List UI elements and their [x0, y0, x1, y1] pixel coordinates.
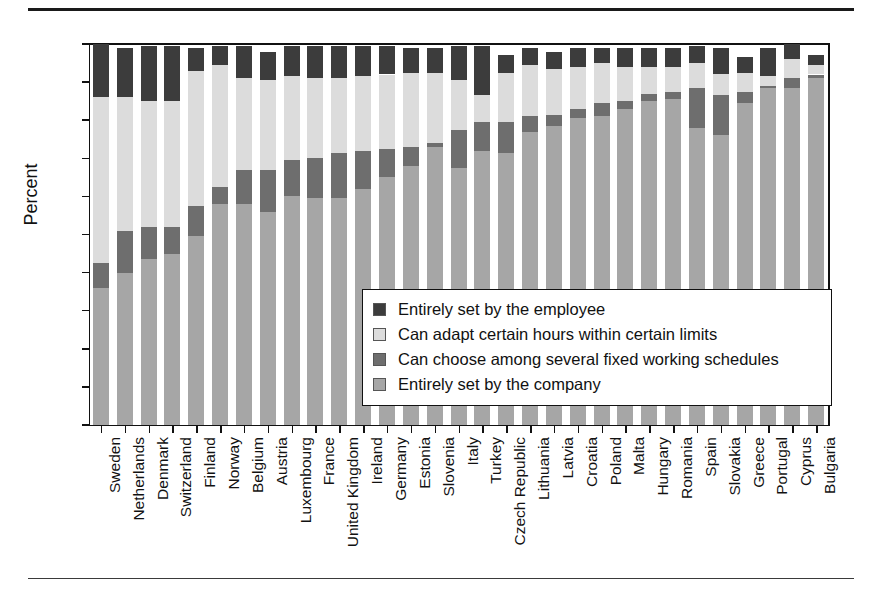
x-tick-mark	[482, 426, 484, 433]
x-tick-mark	[673, 426, 675, 433]
x-tick-mark	[196, 426, 198, 433]
x-tick-mark	[220, 426, 222, 433]
x-tick-mark	[625, 426, 627, 433]
x-tick-label: Romania	[679, 437, 695, 499]
x-tick-label: Denmark	[155, 437, 171, 500]
x-tick-label: Switzerland	[178, 437, 194, 517]
x-tick-mark	[411, 426, 413, 433]
legend-item: Can choose among several fixed working s…	[373, 347, 821, 372]
x-tick-mark	[268, 426, 270, 433]
x-tick-label: Latvia	[560, 437, 576, 478]
chart-legend: Entirely set by the employee Can adapt c…	[362, 289, 832, 406]
x-tick-mark	[745, 426, 747, 433]
x-tick-label: United Kingdom	[345, 437, 361, 547]
figure: Percent 0102030405060708090100 SwedenNet…	[0, 0, 877, 600]
legend-swatch-adapt	[373, 328, 386, 341]
x-tick-label: Czech Republic	[512, 437, 528, 546]
x-tick-label: Netherlands	[131, 437, 147, 521]
x-tick-mark	[101, 426, 103, 433]
x-tick-label: Italy	[465, 437, 481, 465]
x-tick-label: Estonia	[417, 437, 433, 489]
x-tick-mark	[506, 426, 508, 433]
x-tick-mark	[149, 426, 151, 433]
x-tick-label: Austria	[274, 437, 290, 485]
legend-label-company: Entirely set by the company	[398, 376, 601, 393]
x-tick-mark	[315, 426, 317, 433]
x-tick-label: Slovenia	[441, 437, 457, 496]
legend-label-employee: Entirely set by the employee	[398, 301, 605, 318]
x-tick-mark	[649, 426, 651, 433]
x-tick-label: Bulgaria	[822, 437, 838, 494]
x-tick-label: Greece	[751, 437, 767, 488]
x-tick-label: Slovakia	[727, 437, 743, 496]
x-tick-mark	[816, 426, 818, 433]
x-tick-mark	[602, 426, 604, 433]
legend-swatch-company	[373, 378, 386, 391]
x-tick-mark	[578, 426, 580, 433]
x-tick-mark	[244, 426, 246, 433]
x-tick-mark	[292, 426, 294, 433]
x-tick-label: Luxembourg	[298, 437, 314, 523]
x-tick-label: Finland	[202, 437, 218, 488]
x-tick-mark	[459, 426, 461, 433]
x-tick-label: Belgium	[250, 437, 266, 493]
x-tick-label: Sweden	[107, 437, 123, 493]
x-tick-mark	[768, 426, 770, 433]
x-tick-label: Germany	[393, 437, 409, 501]
x-tick-mark	[554, 426, 556, 433]
legend-item: Entirely set by the company	[373, 372, 821, 397]
x-tick-label: Croatia	[584, 437, 600, 487]
x-tick-label: Poland	[608, 437, 624, 485]
legend-item: Entirely set by the employee	[373, 297, 821, 322]
x-tick-label: Norway	[226, 437, 242, 490]
x-tick-label: Hungary	[655, 437, 671, 496]
x-tick-label: Portugal	[774, 437, 790, 495]
x-tick-mark	[172, 426, 174, 433]
legend-swatch-employee	[373, 303, 386, 316]
x-tick-mark	[530, 426, 532, 433]
x-tick-label: Turkey	[488, 437, 504, 484]
x-tick-mark	[363, 426, 365, 433]
x-tick-mark	[792, 426, 794, 433]
legend-swatch-fixed	[373, 353, 386, 366]
x-tick-label: Ireland	[369, 437, 385, 484]
x-tick-mark	[125, 426, 127, 433]
x-tick-label: Cyprus	[798, 437, 814, 486]
legend-label-adapt: Can adapt certain hours within certain l…	[398, 326, 717, 343]
legend-label-fixed: Can choose among several fixed working s…	[398, 351, 779, 368]
legend-item: Can adapt certain hours within certain l…	[373, 322, 821, 347]
x-tick-mark	[387, 426, 389, 433]
x-tick-mark	[435, 426, 437, 433]
x-tick-label: Spain	[703, 437, 719, 477]
x-tick-label: Lithuania	[536, 437, 552, 500]
x-tick-mark	[721, 426, 723, 433]
x-tick-label: France	[321, 437, 337, 485]
x-tick-mark	[697, 426, 699, 433]
x-tick-mark	[339, 426, 341, 433]
x-tick-label: Malta	[631, 437, 647, 475]
